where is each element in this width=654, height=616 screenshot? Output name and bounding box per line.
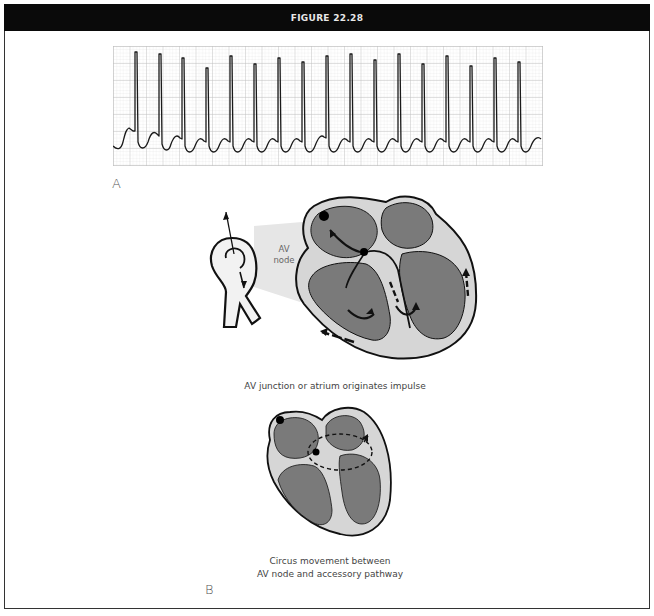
heart-diagram-av-junction: AV node xyxy=(196,192,496,372)
figure-title: FIGURE 22.28 xyxy=(291,13,363,23)
magnified-av-junction xyxy=(211,212,260,327)
ecg-rhythm-strip xyxy=(113,46,543,166)
sa-node xyxy=(319,211,329,221)
av-node xyxy=(360,248,368,256)
av-node-label-line2: node xyxy=(273,255,294,265)
heart-outline xyxy=(296,197,476,359)
heart-diagram-circus-movement xyxy=(260,400,410,545)
caption-bottom-line2: AV node and accessory pathway xyxy=(230,568,430,581)
sa-node xyxy=(276,416,284,424)
caption-top-diagram: AV junction or atrium originates impulse xyxy=(210,380,460,393)
caption-bottom-diagram: Circus movement between AV node and acce… xyxy=(230,555,430,581)
figure-title-bar: FIGURE 22.28 xyxy=(4,4,650,31)
panel-a-label: A xyxy=(112,176,121,191)
caption-bottom-line1: Circus movement between xyxy=(230,555,430,568)
av-node-label-line1: AV xyxy=(278,244,289,254)
panel-b-label: B xyxy=(205,582,214,597)
av-node xyxy=(313,449,320,456)
